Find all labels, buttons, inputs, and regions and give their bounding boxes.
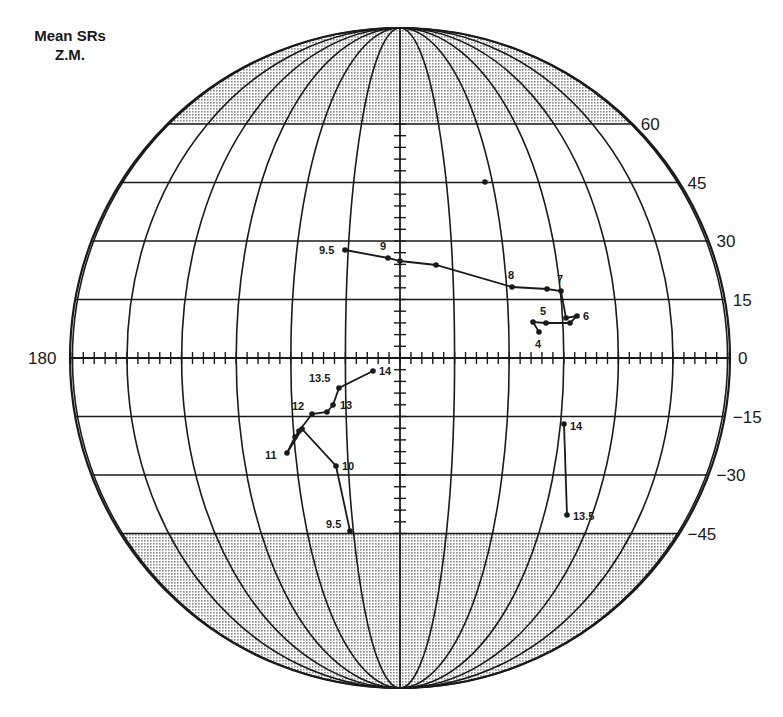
data-point [433,262,439,268]
data-point [336,385,342,391]
data-point [385,255,391,261]
data-point [397,258,403,264]
point-label: 14 [379,365,392,377]
point-label: 6 [583,310,589,322]
series-isolated-point [482,179,488,185]
equator-label-180: 180 [28,349,56,368]
point-label: 4 [535,338,542,350]
lat-label-30: 30 [717,232,736,251]
data-tracks: 9.59876541413.5131211109.51413.5 [265,179,594,534]
data-point [324,409,330,415]
point-label: 9.5 [319,244,334,256]
data-point [509,284,515,290]
lat-label-60: 60 [641,115,660,134]
data-point [347,528,353,534]
data-point [333,463,339,469]
track-line [287,371,373,531]
data-point [536,329,542,335]
data-point [292,434,298,440]
point-label: 11 [265,449,277,461]
point-label: 8 [508,269,514,281]
lat-label-15: 15 [733,291,752,310]
data-point [561,421,567,427]
data-point [330,402,336,408]
point-label: 5 [540,305,546,317]
series-eastern-track [561,421,570,518]
data-point [567,320,573,326]
data-point [543,320,549,326]
track-line [345,250,577,332]
axis-labels: 180604530150−15−30−45 [28,115,762,544]
data-point [482,179,488,185]
point-label: 13.5 [573,510,594,522]
lat-label--15: −15 [733,408,762,427]
data-point [564,512,570,518]
point-label: 9.5 [326,518,341,530]
lat-label--30: −30 [717,466,746,485]
data-point [309,411,315,417]
point-label: 12 [292,400,304,412]
point-label: 13.5 [309,372,330,384]
data-point [370,368,376,374]
data-point [530,319,536,325]
series-southern-track [284,368,376,534]
data-point [342,247,348,253]
data-point [284,450,290,456]
data-point [558,288,564,294]
point-label: 13 [340,399,352,411]
globe-chart: 180604530150−15−30−45 9.59876541413.5131… [0,0,783,717]
lat-label--45: −45 [687,525,716,544]
data-point [544,286,550,292]
point-label: 7 [557,273,563,285]
lat-label-45: 45 [687,174,706,193]
series-northern-track [342,247,580,335]
lat-label-0: 0 [738,349,747,368]
point-label: 9 [380,240,386,252]
data-point [563,315,569,321]
data-point [299,426,305,432]
point-label: 10 [342,460,354,472]
track-line [564,424,567,515]
point-label: 14 [570,420,583,432]
data-point [574,313,580,319]
